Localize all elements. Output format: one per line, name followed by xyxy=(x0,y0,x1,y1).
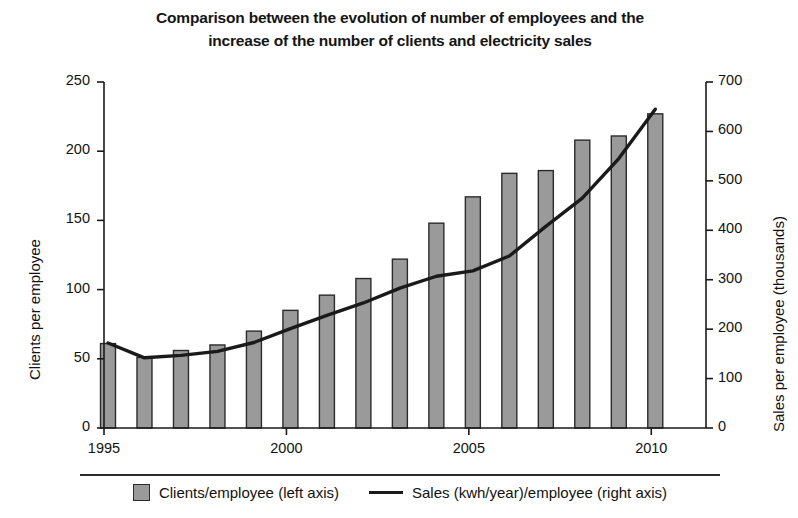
bar xyxy=(611,136,626,428)
y-tick-label: 250 xyxy=(50,72,90,88)
y-tick-label: 150 xyxy=(50,210,90,226)
x-tick-label: 2000 xyxy=(256,440,316,456)
y2-tick-label: 400 xyxy=(718,220,758,236)
y-tick-label: 0 xyxy=(50,418,90,434)
y2-tick-label: 0 xyxy=(718,418,758,434)
bar xyxy=(246,331,261,428)
bar xyxy=(101,344,116,428)
y-tick-label: 200 xyxy=(50,141,90,157)
line-series xyxy=(108,109,655,358)
plot-area: 0501001502002500100200300400500600700199… xyxy=(0,0,798,460)
legend-divider xyxy=(80,474,720,476)
y2-tick-label: 200 xyxy=(718,319,758,335)
sales-line xyxy=(108,109,655,358)
legend-items: Clients/employee (left axis) Sales (kwh/… xyxy=(80,484,720,501)
y2-tick-label: 700 xyxy=(718,72,758,88)
legend-item-sales[interactable]: Sales (kwh/year)/employee (right axis) xyxy=(369,484,667,501)
bar xyxy=(429,223,444,428)
y-axis-title: Clients per employee xyxy=(26,239,43,380)
y2-tick-label: 600 xyxy=(718,121,758,137)
chart-svg xyxy=(0,0,798,460)
bar xyxy=(392,259,407,428)
y2-tick-label: 100 xyxy=(718,369,758,385)
y2-tick-label: 300 xyxy=(718,270,758,286)
bar xyxy=(465,197,480,428)
chart-figure: Comparison between the evolution of numb… xyxy=(0,0,798,518)
line-swatch-icon xyxy=(369,491,403,494)
bar-swatch-icon xyxy=(133,484,150,501)
y2-tick-label: 500 xyxy=(718,171,758,187)
x-tick-label: 2005 xyxy=(439,440,499,456)
legend-item-clients[interactable]: Clients/employee (left axis) xyxy=(133,484,339,501)
y-tick-label: 50 xyxy=(50,349,90,365)
x-tick-label: 1995 xyxy=(74,440,134,456)
bar xyxy=(502,173,517,428)
bar xyxy=(648,114,663,428)
bar xyxy=(210,345,225,428)
x-tick-label: 2010 xyxy=(621,440,681,456)
bar-series xyxy=(101,114,663,428)
legend-label-sales: Sales (kwh/year)/employee (right axis) xyxy=(412,484,667,501)
y2-axis-title: Sales per employee (thousands) xyxy=(770,216,787,432)
y-tick-label: 100 xyxy=(50,280,90,296)
bar xyxy=(538,171,553,428)
bar xyxy=(575,140,590,428)
chart-legend: Clients/employee (left axis) Sales (kwh/… xyxy=(80,472,720,516)
bar xyxy=(137,357,152,428)
legend-label-clients: Clients/employee (left axis) xyxy=(159,484,339,501)
bar xyxy=(173,351,188,429)
